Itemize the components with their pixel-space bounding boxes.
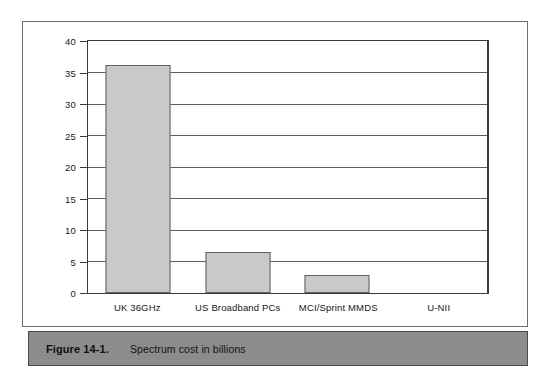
x-axis-labels: UK 36GHzUS Broadband PCsMCI/Sprint MMDSU…	[87, 302, 489, 313]
y-axis-tick-label: 20	[65, 162, 76, 173]
tick-mark	[80, 262, 87, 263]
bar-slot	[188, 41, 288, 293]
y-axis-tick-label: 15	[65, 193, 76, 204]
bars-layer	[88, 41, 487, 293]
bar	[105, 65, 170, 293]
tick-mark	[80, 199, 87, 200]
figure-caption-bar: Figure 14-1. Spectrum cost in billions	[28, 331, 528, 366]
y-axis-tick-label: 0	[71, 288, 76, 299]
tick-mark	[80, 41, 87, 42]
x-axis-label: MCI/Sprint MMDS	[288, 302, 389, 313]
figure-frame: 0510152025303540 UK 36GHzUS Broadband PC…	[22, 21, 528, 327]
bar-slot	[88, 41, 188, 293]
tick-mark	[80, 104, 87, 105]
tick-mark	[80, 167, 87, 168]
bar	[305, 275, 370, 293]
caption-text: Spectrum cost in billions	[130, 343, 246, 355]
tick-mark	[80, 293, 87, 294]
chart-plot-area: 0510152025303540	[87, 40, 489, 294]
x-axis-label: US Broadband PCs	[188, 302, 289, 313]
y-axis-tick-label: 30	[65, 99, 76, 110]
y-axis-tick-label: 25	[65, 130, 76, 141]
tick-mark	[80, 136, 87, 137]
tick-mark	[80, 230, 87, 231]
x-axis-label: U-NII	[389, 302, 490, 313]
tick-mark	[80, 73, 87, 74]
bar-slot	[387, 41, 487, 293]
y-axis-tick-label: 5	[71, 256, 76, 267]
bar	[205, 252, 270, 293]
bar-slot	[288, 41, 388, 293]
y-axis-tick-label: 10	[65, 225, 76, 236]
y-axis-tick-label: 40	[65, 36, 76, 47]
x-axis-label: UK 36GHz	[87, 302, 188, 313]
caption-figure-number: Figure 14-1.	[46, 343, 109, 355]
y-axis-tick-label: 35	[65, 67, 76, 78]
